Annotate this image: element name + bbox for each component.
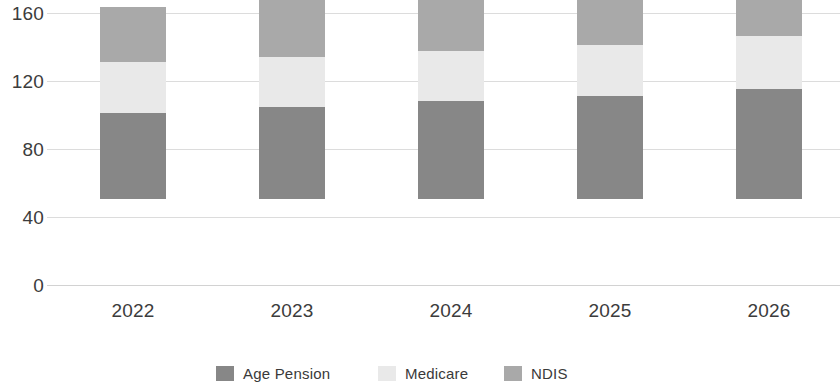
ytick-label-40: 40 [0,208,44,227]
bar-group-2025[interactable] [577,0,643,199]
xtick-label-2024: 2024 [391,300,511,322]
bar-group-2022[interactable] [100,7,166,199]
legend-item-medicare[interactable]: Medicare [378,362,468,384]
bar-segment-ndis[interactable] [259,0,325,57]
bar-segment-medicare[interactable] [259,57,325,107]
xtick-label-2022: 2022 [73,300,193,322]
ytick-120: 120 [0,72,44,91]
bar-segment-ndis[interactable] [100,7,166,62]
ytick-label-0: 0 [0,276,44,295]
legend-swatch-ndis-icon [504,366,522,381]
gridline-40 [47,217,840,218]
bar-segment-age-pension[interactable] [577,96,643,199]
bar-segment-age-pension[interactable] [736,89,802,199]
xtick-label-2023: 2023 [232,300,352,322]
bar-segment-medicare[interactable] [100,62,166,113]
legend-item-ndis[interactable]: NDIS [504,362,568,384]
bar-group-2024[interactable] [418,0,484,199]
ytick-label-160: 160 [0,4,44,23]
ytick-label-120: 120 [0,72,44,91]
ytick-label-80: 80 [0,140,44,159]
bar-segment-age-pension[interactable] [100,113,166,199]
bar-segment-age-pension[interactable] [259,107,325,199]
plot-area: 160 120 80 40 0 [0,0,840,300]
bar-segment-medicare[interactable] [736,36,802,89]
legend-label-medicare: Medicare [405,365,468,382]
ytick-40: 40 [0,208,44,227]
xtick-label-2025: 2025 [550,300,670,322]
ytick-80: 80 [0,140,44,159]
bar-segment-ndis[interactable] [577,0,643,45]
bar-group-2026[interactable] [736,0,802,199]
legend-item-age-pension[interactable]: Age Pension [216,362,330,384]
bar-segment-age-pension[interactable] [418,101,484,199]
gridline-0 [47,285,840,286]
ytick-0: 0 [0,276,44,295]
bar-segment-medicare[interactable] [418,51,484,101]
stacked-bar-chart: 160 120 80 40 0 [0,0,840,386]
xtick-label-2026: 2026 [709,300,829,322]
bar-segment-ndis[interactable] [736,0,802,36]
legend-swatch-age-pension-icon [216,366,234,381]
chart-legend: Age Pension Medicare NDIS [0,362,840,386]
legend-label-age-pension: Age Pension [243,365,330,382]
bar-segment-medicare[interactable] [577,45,643,96]
bar-segment-ndis[interactable] [418,0,484,51]
legend-swatch-medicare-icon [378,366,396,381]
bar-group-2023[interactable] [259,0,325,199]
ytick-160: 160 [0,4,44,23]
legend-label-ndis: NDIS [531,365,568,382]
